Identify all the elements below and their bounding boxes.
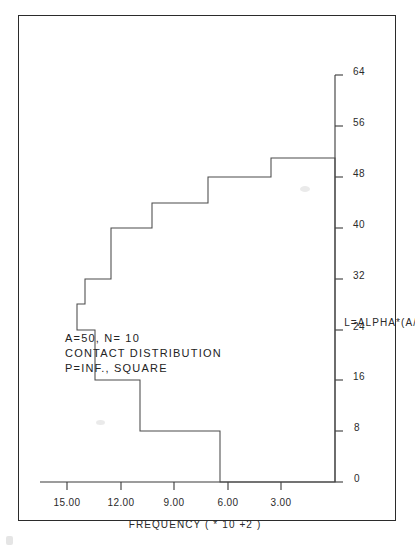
x-tick-group: [335, 75, 343, 482]
y-tick-labels: 3.00 6.00 9.00 12.00 15.00: [53, 497, 291, 508]
title-block: P=INF., SQUARE CONTACT DISTRIBUTION A=50…: [65, 332, 222, 374]
y-axis-title: FREQUENCY ( * 10 +2 ): [129, 519, 262, 530]
y-tick-label: 12.00: [107, 497, 134, 508]
x-tick-label: 0: [354, 473, 360, 484]
title-line-3: A=50, N= 10: [65, 332, 140, 344]
y-tick-group: [67, 482, 281, 490]
x-tick-label: 16: [353, 371, 365, 382]
x-axis-title: L=ALPHA*(A/N): [344, 317, 415, 328]
x-tick-label: 8: [354, 422, 360, 433]
x-tick-label: 40: [353, 219, 365, 230]
title-line-1: P=INF., SQUARE: [65, 362, 168, 374]
y-tick-label: 6.00: [217, 497, 238, 508]
histogram-figure: 0 8 16 24 32 40 48 56 64 L=ALPHA*(A/N) 3…: [35, 42, 385, 512]
y-tick-label: 9.00: [163, 497, 184, 508]
x-tick-label: 56: [353, 117, 365, 128]
rotated-figure-wrapper: 0 8 16 24 32 40 48 56 64 L=ALPHA*(A/N) 3…: [0, 0, 415, 551]
y-tick-label: 3.00: [270, 497, 291, 508]
x-tick-label: 64: [353, 66, 365, 77]
title-line-2: CONTACT DISTRIBUTION: [65, 347, 222, 359]
x-tick-label: 48: [353, 168, 365, 179]
x-tick-labels: 0 8 16 24 32 40 48 56 64: [353, 66, 365, 484]
y-tick-label: 15.00: [53, 497, 80, 508]
histogram-outline: [77, 158, 335, 482]
x-tick-label: 32: [353, 270, 365, 281]
plot-svg: 0 8 16 24 32 40 48 56 64 L=ALPHA*(A/N) 3…: [35, 42, 385, 512]
